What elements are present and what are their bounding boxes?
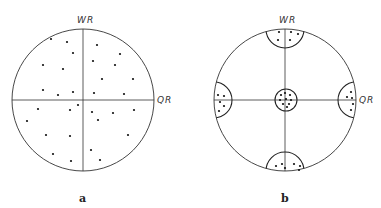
- diagram-b-wr-label: WR: [279, 15, 296, 25]
- data-point: [298, 169, 300, 171]
- data-point: [218, 110, 220, 112]
- data-point: [99, 159, 101, 161]
- data-point: [275, 165, 277, 167]
- stereographic-projection-figure: WR QR a WR QR b: [0, 0, 381, 208]
- data-point: [219, 101, 221, 103]
- data-point: [284, 92, 286, 94]
- data-point: [77, 104, 79, 106]
- data-point: [45, 134, 47, 136]
- data-point: [297, 33, 299, 35]
- data-point: [293, 163, 295, 165]
- data-point: [52, 153, 54, 155]
- data-point: [72, 91, 74, 93]
- data-point: [133, 109, 135, 111]
- data-point: [351, 97, 353, 99]
- data-point: [69, 109, 71, 111]
- data-point: [289, 94, 291, 96]
- data-point: [91, 111, 93, 113]
- data-point: [286, 106, 288, 108]
- data-point: [217, 94, 219, 96]
- diagram-b: WR QR b: [196, 10, 374, 205]
- data-point: [282, 103, 284, 105]
- data-point: [280, 94, 282, 96]
- data-point: [132, 78, 134, 80]
- diagram-a: WR QR a: [12, 15, 172, 205]
- data-point: [90, 149, 92, 151]
- data-point: [92, 60, 94, 62]
- data-point: [278, 31, 280, 33]
- diagram-a-qr-label: QR: [157, 95, 172, 105]
- data-point: [123, 93, 125, 95]
- data-point: [42, 89, 44, 91]
- data-point: [285, 98, 287, 100]
- data-point: [114, 64, 116, 66]
- data-point: [350, 91, 352, 93]
- data-point: [119, 53, 121, 55]
- data-point: [223, 105, 225, 107]
- data-point: [37, 108, 39, 110]
- data-point: [93, 92, 95, 94]
- data-point: [69, 135, 71, 137]
- data-point: [223, 95, 225, 97]
- data-point: [96, 44, 98, 46]
- diagram-b-qr-label: QR: [359, 95, 374, 105]
- data-point: [289, 39, 291, 41]
- data-point: [290, 99, 292, 101]
- data-point: [57, 94, 59, 96]
- data-point: [281, 163, 283, 165]
- data-point: [70, 160, 72, 162]
- data-point: [72, 52, 74, 54]
- diagram-b-panel-label: b: [281, 192, 289, 205]
- data-point: [112, 112, 114, 114]
- data-point: [26, 120, 28, 122]
- diagram-a-wr-label: WR: [77, 15, 94, 25]
- data-point: [290, 31, 292, 33]
- data-point: [42, 64, 44, 66]
- data-point: [66, 41, 68, 43]
- data-point: [62, 68, 64, 70]
- data-point: [299, 165, 301, 167]
- data-point: [101, 78, 103, 80]
- data-point: [288, 103, 290, 105]
- diagram-a-panel-label: a: [79, 192, 86, 205]
- data-point: [352, 103, 354, 105]
- data-point: [346, 96, 348, 98]
- diagram-b-points: [217, 31, 354, 171]
- data-point: [97, 119, 99, 121]
- data-point: [279, 99, 281, 101]
- data-point: [127, 134, 129, 136]
- data-point: [50, 38, 52, 40]
- data-point: [350, 109, 352, 111]
- data-point: [277, 39, 279, 41]
- data-point: [284, 167, 286, 169]
